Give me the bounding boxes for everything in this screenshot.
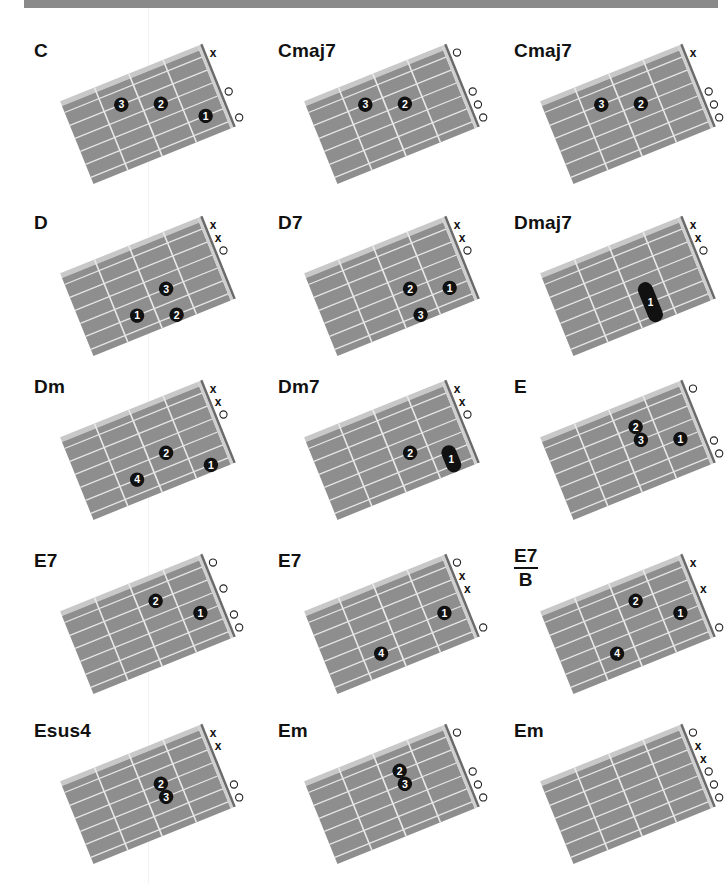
chord-diagram-e7: E7 xx14 [266,538,496,708]
finger-number: 4 [134,473,140,485]
open-string-icon [480,794,487,801]
fretboard: 32 [266,28,496,198]
fretboard: xx241 [22,364,252,534]
open-string-icon [453,49,460,56]
muted-string-icon: x [700,752,707,766]
finger-number: 2 [153,595,159,607]
muted-string-icon: x [210,382,217,396]
open-string-icon [689,729,696,736]
finger-number: 3 [402,778,408,790]
finger-number: 2 [174,309,180,321]
chord-diagram-e7: E7 21 [22,538,252,708]
finger-number: 1 [447,282,453,294]
finger-number: 1 [208,459,214,471]
open-string-icon [469,768,476,775]
finger-number: 2 [397,765,403,777]
finger-number: 3 [163,791,169,803]
open-string-icon [716,114,723,121]
chord-diagram-esus4: Esus4 xx23 [22,708,252,878]
chord-diagram-cmaj7: Cmaj7 x32 [502,28,728,198]
chord-diagram-e7-b: E7B xx214 [502,538,728,708]
open-string-icon [453,729,460,736]
open-string-icon [474,781,481,788]
chord-diagram-em: Em xx [502,708,728,878]
fretboard: xx213 [266,200,496,370]
chord-diagram-d: D xx312 [22,200,252,370]
chord-diagram-dmaj7: Dmaj7 xx1 [502,200,728,370]
open-string-icon [716,450,723,457]
finger-number: 2 [407,283,413,295]
open-string-icon [209,559,216,566]
muted-string-icon: x [210,46,217,60]
chord-diagram-e: E 231 [502,364,728,534]
finger-number: 1 [198,607,204,619]
open-string-icon [705,88,712,95]
open-string-icon [220,411,227,418]
fretboard: xx1 [502,200,728,370]
finger-number: 2 [407,447,413,459]
open-string-icon [710,437,717,444]
open-string-icon [716,624,723,631]
muted-string-icon: x [459,395,466,409]
finger-number: 3 [598,98,604,110]
open-string-icon [230,611,237,618]
fretboard: x32 [502,28,728,198]
open-string-icon [230,781,237,788]
open-string-icon [689,385,696,392]
finger-number: 4 [614,647,620,659]
open-string-icon [716,794,723,801]
finger-number: 2 [158,778,164,790]
muted-string-icon: x [459,231,466,245]
open-string-icon [236,794,243,801]
open-string-icon [464,411,471,418]
chord-diagram-cmaj7: Cmaj7 32 [266,28,496,198]
finger-number: 1 [648,297,654,308]
muted-string-icon: x [690,46,697,60]
finger-number: 4 [378,647,384,659]
finger-number: 2 [633,595,639,607]
open-string-icon [453,559,460,566]
finger-number: 1 [678,433,684,445]
chord-diagram-c: C x321 [22,28,252,198]
open-string-icon [710,101,717,108]
chord-diagram-dm7: Dm7 xx12 [266,364,496,534]
finger-number: 2 [402,98,408,110]
finger-number: 2 [163,447,169,459]
fretboard: x321 [22,28,252,198]
open-string-icon [480,624,487,631]
finger-number: 2 [158,98,164,110]
fretboard: 23 [266,708,496,878]
chord-diagram-d7: D7 xx213 [266,200,496,370]
finger-number: 3 [638,434,644,446]
finger-number: 1 [134,309,140,321]
open-string-icon [464,247,471,254]
muted-string-icon: x [454,382,461,396]
chord-diagram-em: Em 23 [266,708,496,878]
finger-number: 3 [163,283,169,295]
finger-number: 2 [633,421,639,433]
finger-number: 1 [203,110,209,122]
open-string-icon [236,114,243,121]
fretboard: xx23 [22,708,252,878]
open-string-icon [225,88,232,95]
open-string-icon [710,781,717,788]
finger-number: 1 [442,607,448,619]
open-string-icon [220,247,227,254]
muted-string-icon: x [695,739,702,753]
muted-string-icon: x [215,231,222,245]
finger-number: 3 [418,309,424,321]
open-string-icon [474,101,481,108]
fretboard: xx12 [266,364,496,534]
open-string-icon [700,247,707,254]
muted-string-icon: x [695,231,702,245]
finger-number: 1 [678,607,684,619]
fretboard: xx14 [266,538,496,708]
fretboard: xx [502,708,728,878]
chord-diagram-dm: Dm xx241 [22,364,252,534]
muted-string-icon: x [454,218,461,232]
finger-number: 2 [638,98,644,110]
fretboard: 231 [502,364,728,534]
muted-string-icon: x [700,582,707,596]
finger-number: 3 [118,98,124,110]
